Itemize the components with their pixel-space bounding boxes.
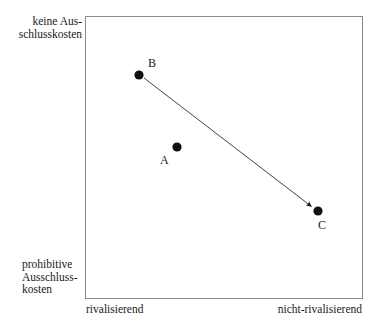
y-axis-top-label-line1: keine Aus- xyxy=(0,15,82,28)
x-axis-right-label: nicht-rivalisierend xyxy=(243,303,362,316)
y-axis-bottom-label-line2: Ausschluss- xyxy=(22,271,142,284)
figure-canvas: keine Aus- schlusskosten prohibitive Aus… xyxy=(0,0,383,334)
data-point-b xyxy=(134,70,143,79)
data-point-c xyxy=(313,206,322,215)
y-axis-bottom-label-line1: prohibitive xyxy=(22,258,142,271)
y-axis-top-label-line2: schlusskosten xyxy=(0,28,82,41)
x-axis-left-label: rivalisierend xyxy=(86,303,143,316)
y-axis-bottom-label: prohibitive Ausschluss- kosten xyxy=(22,258,142,296)
data-point-a xyxy=(172,142,181,151)
y-axis-top-label: keine Aus- schlusskosten xyxy=(0,15,82,40)
data-point-label-a: A xyxy=(160,154,169,166)
y-axis-bottom-label-line3: kosten xyxy=(22,283,142,296)
arrow-b-to-c xyxy=(144,78,312,207)
data-point-label-b: B xyxy=(148,57,156,69)
data-point-label-c: C xyxy=(318,219,326,231)
